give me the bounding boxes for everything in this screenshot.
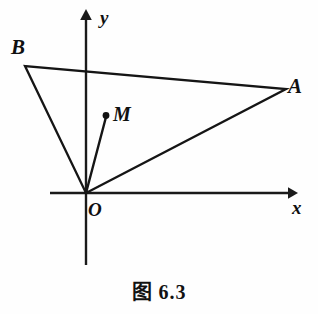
triangle-oab [25, 66, 286, 193]
point-label-b: B [11, 37, 25, 58]
point-label-m: M [113, 104, 131, 124]
geometry-diagram [0, 0, 318, 314]
segment-om [86, 117, 106, 193]
x-axis-label: x [292, 198, 302, 217]
point-label-a: A [288, 76, 302, 97]
point-m-dot [103, 112, 110, 119]
y-axis-label: y [100, 8, 108, 27]
origin-label-o: O [88, 200, 102, 219]
y-axis-arrow-icon [80, 9, 92, 20]
figure-caption: 图 6.3 [0, 276, 318, 305]
figure-container: B A M O y x 图 6.3 [0, 0, 318, 314]
